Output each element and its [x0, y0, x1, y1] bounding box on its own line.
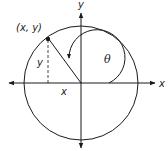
theta-label: θ: [104, 53, 111, 66]
unit-circle-diagram: y x (x, y) y x θ: [0, 0, 168, 151]
point-label: (x, y): [16, 22, 42, 33]
x-segment-label: x: [60, 86, 67, 97]
y-segment-label: y: [36, 57, 44, 68]
angle-arc-icon: [69, 30, 125, 83]
y-axis-label: y: [77, 0, 85, 10]
point-marker: [46, 37, 50, 41]
x-axis-label: x: [158, 78, 165, 89]
radius-line: [48, 38, 81, 83]
